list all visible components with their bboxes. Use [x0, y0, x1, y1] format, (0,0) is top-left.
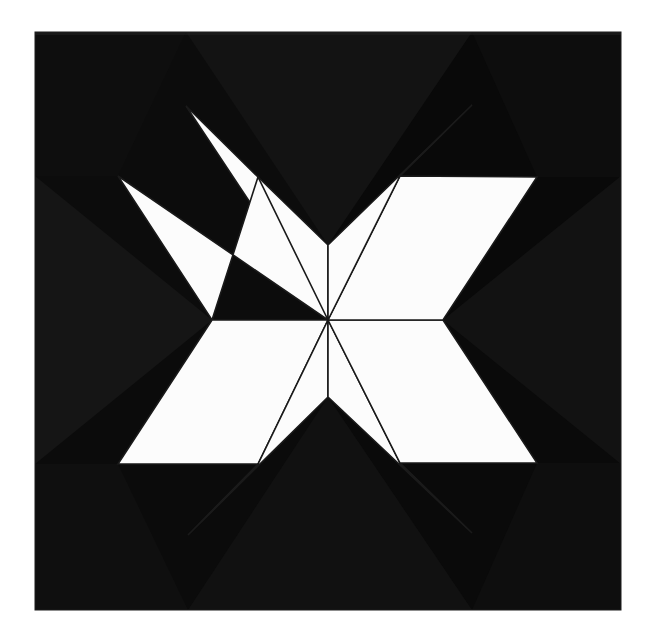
star-quilt-block-image: Eight-Pointed Star Quilt Block	[0, 0, 647, 638]
block-top-highlight	[35, 32, 621, 35]
quilt-photo-canvas: Eight-Pointed Star Quilt Block	[0, 0, 647, 638]
